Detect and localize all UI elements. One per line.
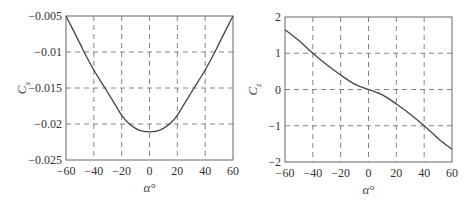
- y-axis-label: Cz: [245, 83, 263, 96]
- cz-chart: −60−40−200204060210−1−2α°Cz: [245, 10, 458, 197]
- y-tick-label: −0.02: [34, 117, 62, 131]
- x-tick-label: −40: [84, 164, 103, 178]
- x-tick-label: 0: [147, 164, 153, 178]
- y-tick-label: −0.005: [28, 9, 62, 23]
- y-tick-label: 2: [275, 10, 281, 24]
- y-tick-label: −0.025: [28, 153, 62, 167]
- y-tick-label: −0.015: [28, 81, 62, 95]
- x-tick-label: 40: [418, 166, 430, 180]
- x-tick-label: 0: [366, 166, 372, 180]
- x-tick-label: −20: [331, 166, 350, 180]
- x-tick-label: −20: [112, 164, 131, 178]
- y-tick-label: 1: [275, 46, 281, 60]
- chart-canvas: −60−40−200204060−0.005−0.01−0.015−0.02−0…: [0, 0, 467, 205]
- x-tick-label: 40: [199, 164, 211, 178]
- cx-chart: −60−40−200204060−0.005−0.01−0.015−0.02−0…: [14, 9, 239, 195]
- x-tick-label: 20: [390, 166, 402, 180]
- y-tick-label: −1: [268, 119, 281, 133]
- x-axis-label: α°: [143, 180, 155, 195]
- y-tick-label: 0: [275, 83, 281, 97]
- y-tick-label: −0.01: [34, 45, 62, 59]
- x-axis-label: α°: [362, 182, 374, 197]
- x-tick-label: 20: [171, 164, 183, 178]
- x-tick-label: −40: [303, 166, 322, 180]
- x-tick-label: 60: [227, 164, 239, 178]
- x-tick-label: 60: [446, 166, 458, 180]
- y-tick-label: −2: [268, 155, 281, 169]
